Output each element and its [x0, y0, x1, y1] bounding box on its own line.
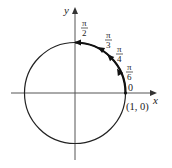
pi4-numerator: π: [117, 44, 122, 54]
point-1-0: [124, 91, 127, 94]
angle-label-pi4: π 4: [116, 44, 123, 64]
unit-circle-diagram: y x (1, 0) 0 π 6 π 4 π 3 π 2: [0, 0, 172, 168]
pi2-denominator: 2: [82, 28, 87, 38]
pi6-denominator: 6: [127, 72, 132, 82]
x-axis-label: x: [152, 94, 158, 106]
arc-arrows: [74, 40, 123, 77]
angle-label-0: 0: [128, 82, 133, 93]
pi3-numerator: π: [106, 30, 111, 40]
point-label: (1, 0): [126, 101, 149, 113]
angle-label-pi2: π 2: [81, 18, 88, 38]
pi3-denominator: 3: [106, 40, 111, 50]
y-axis-label: y: [63, 4, 69, 16]
angle-label-pi3: π 3: [105, 30, 112, 50]
pi6-numerator: π: [127, 62, 132, 72]
x-axis: [11, 90, 157, 96]
y-axis-arrow-icon: [72, 7, 78, 14]
pi4-denominator: 4: [117, 54, 122, 64]
angle-label-pi6: π 6: [126, 62, 133, 82]
pi2-numerator: π: [82, 18, 87, 28]
y-axis: [72, 7, 78, 160]
